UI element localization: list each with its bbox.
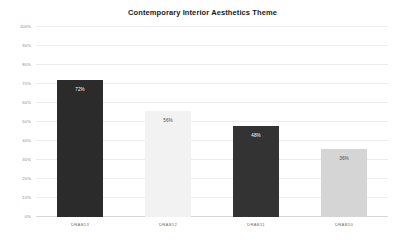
bar-DRAB11[interactable]: 48% xyxy=(233,126,279,217)
bar-series: 72%56%48%36% xyxy=(36,27,388,217)
y-axis-tick-label: 0% xyxy=(25,214,31,219)
bar-value-label: 56% xyxy=(145,118,191,123)
x-axis-label-DRAB11: DRAB11 xyxy=(212,222,300,227)
chart-title: Contemporary Interior Aesthetics Theme xyxy=(0,8,405,17)
x-axis-labels: DRAB13DRAB12DRAB11DRAB10 xyxy=(36,222,388,234)
chart-container: Contemporary Interior Aesthetics Theme 0… xyxy=(0,0,405,244)
bar-DRAB12[interactable]: 56% xyxy=(145,111,191,217)
y-axis-tick-label: 90% xyxy=(22,43,31,48)
bar-value-label: 36% xyxy=(321,156,367,161)
y-axis-tick-label: 40% xyxy=(22,138,31,143)
y-axis-tick-label: 100% xyxy=(20,24,31,29)
y-axis-tick-label: 50% xyxy=(22,119,31,124)
y-axis-tick-label: 60% xyxy=(22,100,31,105)
bar-slot: 72% xyxy=(36,27,124,217)
bar-slot: 56% xyxy=(124,27,212,217)
x-axis-label-DRAB10: DRAB10 xyxy=(300,222,388,227)
bar-value-label: 48% xyxy=(233,133,279,138)
plot-area: 0%10%20%30%40%50%60%70%80%90%100% 72%56%… xyxy=(36,27,388,217)
x-axis-label-DRAB13: DRAB13 xyxy=(36,222,124,227)
bar-DRAB13[interactable]: 72% xyxy=(57,80,103,217)
bar-slot: 36% xyxy=(300,27,388,217)
bar-slot: 48% xyxy=(212,27,300,217)
y-axis-tick-label: 80% xyxy=(22,62,31,67)
y-axis-tick-label: 30% xyxy=(22,157,31,162)
y-axis-tick-label: 70% xyxy=(22,81,31,86)
x-axis-label-DRAB12: DRAB12 xyxy=(124,222,212,227)
y-axis-tick-label: 20% xyxy=(22,176,31,181)
bar-DRAB10[interactable]: 36% xyxy=(321,149,367,217)
y-axis-tick-label: 10% xyxy=(22,195,31,200)
bar-value-label: 72% xyxy=(57,87,103,92)
